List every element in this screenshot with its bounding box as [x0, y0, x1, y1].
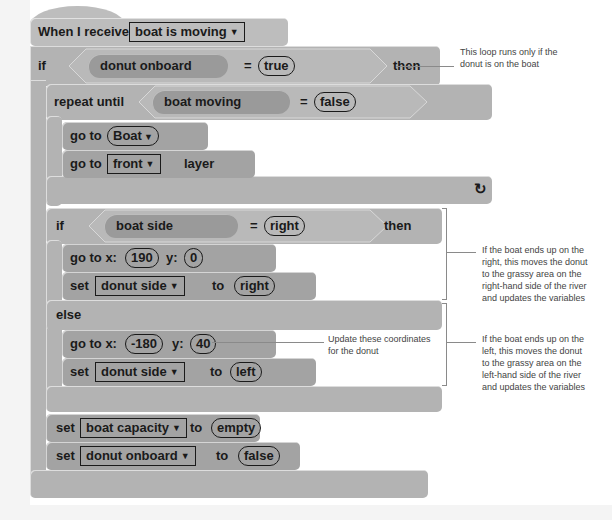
if-label: if — [56, 218, 64, 234]
equals-operator: = — [300, 94, 308, 110]
left-note: If the boat ends up on the left, this mo… — [482, 333, 585, 393]
target-value: Boat — [113, 128, 142, 143]
repeat-footer: ↻ — [46, 176, 492, 204]
boat-side-reporter[interactable]: boat side — [104, 214, 238, 238]
note-line: If the boat ends up on the — [482, 333, 585, 345]
chevron-down-icon: ▼ — [146, 159, 155, 169]
set-donut-side-left-block[interactable]: set donut side▼ to left — [62, 358, 316, 386]
right-bracket-bottom — [442, 299, 447, 300]
note-line: right, this moves the donut — [482, 256, 588, 268]
when-i-receive-block[interactable]: When I receive boat is moving▼ — [30, 18, 288, 46]
note-line: This loop runs only if the — [460, 46, 558, 58]
note-line: left, this moves the donut — [482, 345, 585, 357]
variable-dropdown[interactable]: donut side▼ — [95, 276, 185, 296]
set-label: set — [70, 364, 89, 380]
chevron-down-icon: ▼ — [181, 451, 190, 461]
equals-operator: = — [244, 58, 252, 74]
equals-operator: = — [250, 218, 258, 234]
boat-moving-reporter[interactable]: boat moving — [152, 90, 290, 114]
layer-value: front — [113, 156, 143, 171]
variable-dropdown[interactable]: donut side▼ — [95, 362, 185, 382]
variable-value: boat capacity — [86, 420, 169, 435]
coords-note: Update these coordinates for the donut — [328, 333, 431, 357]
note-line: and updates the variables — [482, 381, 585, 393]
y-label: y: — [166, 250, 178, 266]
go-to-label: go to — [70, 128, 102, 144]
if-inner-footer — [46, 386, 442, 412]
left-note-leader — [446, 342, 476, 343]
repeat-until-block[interactable]: repeat until boat moving = false — [46, 84, 492, 120]
message-dropdown[interactable]: boat is moving▼ — [129, 22, 245, 42]
else-label: else — [56, 307, 81, 323]
layer-dropdown[interactable]: front▼ — [107, 154, 161, 174]
else-section: else — [46, 300, 442, 330]
chevron-down-icon: ▼ — [172, 423, 181, 433]
variable-value: donut onboard — [86, 448, 178, 463]
loop-note: This loop runs only if the donut is on t… — [460, 46, 558, 70]
if-outer-arm — [30, 80, 46, 490]
set-donut-onboard-block[interactable]: set donut onboard▼ to false — [46, 442, 300, 470]
to-label: to — [190, 420, 202, 436]
repeat-until-label: repeat until — [54, 94, 124, 110]
left-bracket-bottom — [442, 385, 447, 386]
chevron-down-icon: ▼ — [230, 27, 239, 37]
note-line: for the donut — [328, 345, 431, 357]
chevron-down-icon: ▼ — [144, 132, 153, 142]
chevron-down-icon: ▼ — [170, 281, 179, 291]
value-true[interactable]: true — [258, 56, 295, 76]
variable-dropdown[interactable]: donut onboard▼ — [80, 446, 196, 466]
value-input[interactable]: false — [238, 446, 280, 466]
target-dropdown[interactable]: Boat▼ — [107, 126, 159, 146]
if-donut-onboard-block[interactable]: if donut onboard = true then — [30, 46, 440, 86]
set-boat-capacity-block[interactable]: set boat capacity▼ to empty — [46, 414, 260, 442]
to-label: to — [212, 278, 224, 294]
y-label: y: — [172, 336, 184, 352]
go-to-layer-block[interactable]: go to front▼ layer — [62, 150, 255, 178]
note-line: right-hand side of the river — [482, 280, 588, 292]
set-donut-side-right-block[interactable]: set donut side▼ to right — [62, 272, 316, 300]
loop-arrow-icon: ↻ — [474, 181, 487, 197]
if-outer-footer — [30, 470, 428, 498]
left-bracket-top — [442, 303, 447, 304]
chevron-down-icon: ▼ — [170, 367, 179, 377]
y-input[interactable]: 40 — [190, 334, 216, 354]
message-value: boat is moving — [135, 24, 227, 39]
value-false[interactable]: false — [314, 92, 356, 112]
value-input[interactable]: empty — [211, 418, 261, 438]
go-to-xy-left-block[interactable]: go to x: -180 y: 40 — [62, 330, 276, 358]
note-line: Update these coordinates — [328, 333, 431, 345]
then-label: then — [384, 218, 411, 234]
if-boat-side-block[interactable]: if boat side = right then — [46, 208, 442, 244]
note-line: donut is on the boat — [460, 58, 558, 70]
set-label: set — [56, 448, 75, 464]
go-to-xy-right-block[interactable]: go to x: 190 y: 0 — [62, 244, 276, 272]
right-bracket — [446, 208, 447, 300]
value-right[interactable]: right — [264, 216, 305, 236]
variable-dropdown[interactable]: boat capacity▼ — [80, 418, 187, 438]
variable-value: donut side — [101, 364, 167, 379]
coords-note-leader — [212, 342, 324, 343]
when-i-receive-label: When I receive — [38, 24, 129, 40]
left-bracket — [446, 303, 447, 386]
donut-onboard-reporter[interactable]: donut onboard — [88, 54, 228, 78]
to-label: to — [216, 448, 228, 464]
variable-name: boat moving — [164, 94, 241, 109]
note-line: left-hand side of the river — [482, 369, 585, 381]
go-to-sprite-block[interactable]: go to Boat▼ — [62, 122, 208, 150]
variable-name: donut onboard — [100, 58, 192, 73]
right-note: If the boat ends up on the right, this m… — [482, 244, 588, 304]
y-input[interactable]: 0 — [184, 248, 203, 268]
value-input[interactable]: left — [230, 362, 262, 382]
set-label: set — [56, 420, 75, 436]
note-line: If the boat ends up on the — [482, 244, 588, 256]
variable-value: donut side — [101, 278, 167, 293]
x-input[interactable]: -180 — [125, 334, 163, 354]
right-bracket-top — [442, 208, 447, 209]
value-input[interactable]: right — [234, 276, 275, 296]
x-input[interactable]: 190 — [125, 248, 159, 268]
loop-note-leader — [396, 66, 454, 67]
layer-label: layer — [184, 156, 214, 172]
go-to-x-label: go to x: — [70, 250, 117, 266]
right-note-leader — [446, 252, 476, 253]
to-label: to — [210, 364, 222, 380]
